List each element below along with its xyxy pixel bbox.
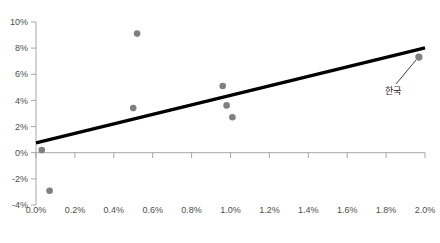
y-tick-label-neg2: -2% <box>0 174 28 184</box>
x-tick-label-5: 1.0% <box>211 205 251 215</box>
y-tick-label-2: 2% <box>0 122 28 132</box>
y-tick-label-0: 0% <box>0 148 28 158</box>
x-axis-ticks <box>36 153 425 158</box>
x-tick-label-6: 1.2% <box>249 205 289 215</box>
data-point <box>46 187 53 194</box>
x-tick-label-0: 0.0% <box>16 205 56 215</box>
x-tick-label-9: 1.8% <box>366 205 406 215</box>
y-tick-label-4: 4% <box>0 96 28 106</box>
scatter-chart: 10% 8% 6% 4% 2% 0% -2% -4% 0.0% 0.2% 0.4… <box>0 0 440 243</box>
x-tick-label-3: 0.6% <box>133 205 173 215</box>
x-tick-label-1: 0.2% <box>55 205 95 215</box>
x-tick-label-4: 0.8% <box>172 205 212 215</box>
data-point <box>223 102 230 109</box>
data-point <box>130 105 137 112</box>
data-point <box>229 114 236 121</box>
y-axis-ticks <box>31 22 36 205</box>
trend-line <box>36 48 425 143</box>
y-tick-label-10: 10% <box>0 17 28 27</box>
annotation-leader-line <box>396 60 416 84</box>
y-tick-label-8: 8% <box>0 43 28 53</box>
x-tick-label-8: 1.6% <box>327 205 367 215</box>
data-point <box>134 30 141 37</box>
data-points <box>39 30 423 194</box>
annotation-korea-label: 한국 <box>385 84 401 97</box>
x-tick-label-7: 1.4% <box>288 205 328 215</box>
x-tick-label-2: 0.4% <box>94 205 134 215</box>
data-point <box>219 83 226 90</box>
y-tick-label-6: 6% <box>0 69 28 79</box>
x-tick-label-10: 2.0% <box>405 205 440 215</box>
data-point <box>39 147 46 154</box>
data-point-korea <box>415 54 422 61</box>
